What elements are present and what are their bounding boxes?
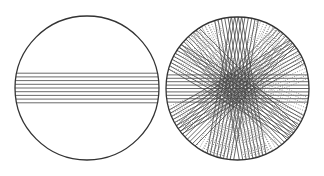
right-circle-panel [166,17,309,160]
right-chord-bundles [166,17,309,160]
left-circle-panel [15,16,159,160]
chord-bundle-left-0 [15,73,159,103]
left-chord-bundle [15,73,159,103]
chord-line [192,43,293,144]
chord-figure [0,0,324,176]
